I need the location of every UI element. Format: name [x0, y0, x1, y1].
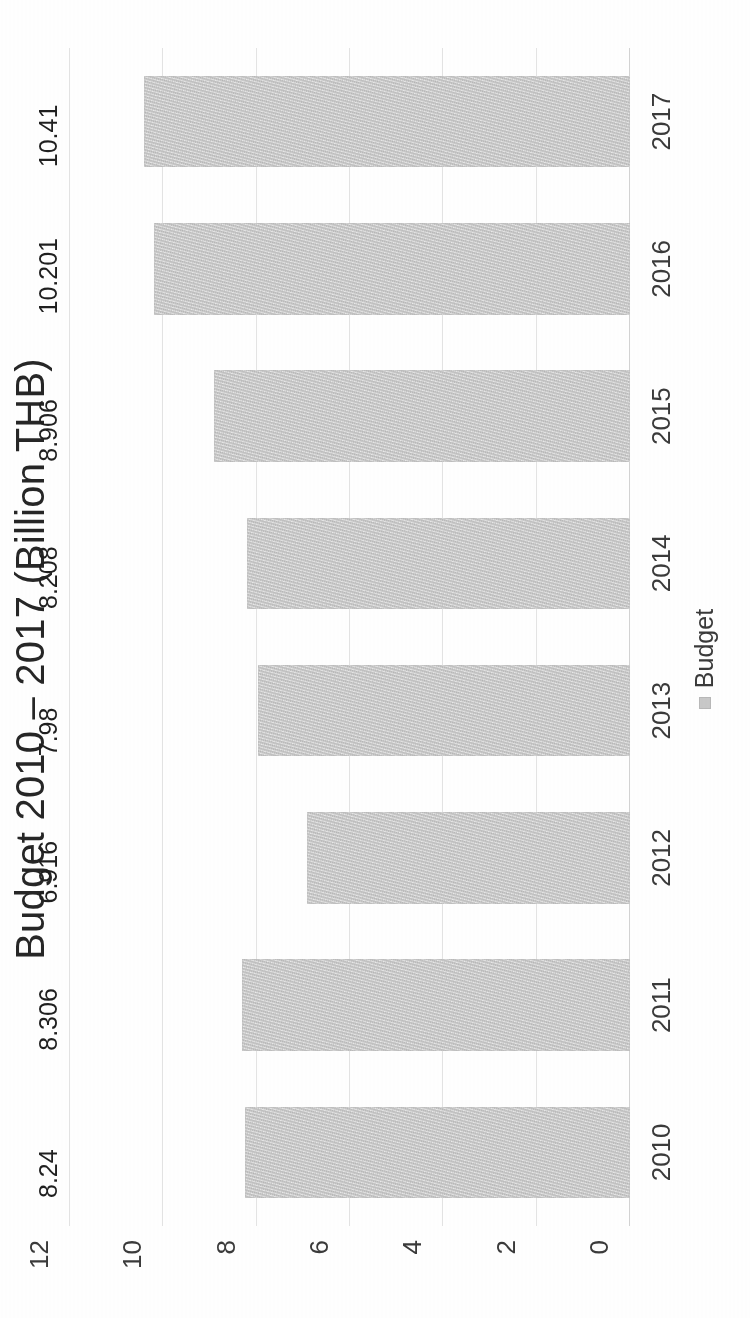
bar-group-2014: 8.2082014 [70, 490, 630, 637]
bar-group-2013: 7.982013 [70, 637, 630, 784]
bar-value-label-2015: 8.906 [34, 399, 63, 462]
y-tick-label-2: 2 [490, 1240, 521, 1254]
x-tick-label-2016: 2016 [646, 240, 677, 298]
bar-value-label-2016: 10.201 [34, 238, 63, 314]
plot-area: 024681012 8.2420108.30620116.91620127.98… [70, 48, 630, 1226]
x-tick-label-2013: 2013 [646, 682, 677, 740]
bar-group-2011: 8.3062011 [70, 932, 630, 1079]
bar-group-2016: 10.2012016 [70, 195, 630, 342]
bar-value-label-2010: 8.24 [34, 1149, 63, 1198]
y-tick-label-0: 0 [584, 1240, 615, 1254]
legend-label-budget: Budget [690, 609, 719, 688]
bar-group-2010: 8.242010 [70, 1079, 630, 1226]
y-tick-label-6: 6 [304, 1240, 335, 1254]
x-tick-label-2017: 2017 [646, 93, 677, 151]
bar-series-budget: 8.2420108.30620116.91620127.9820138.2082… [70, 48, 630, 1226]
bar-group-2015: 8.9062015 [70, 343, 630, 490]
bar-2011[interactable]: 8.306 [242, 959, 630, 1050]
scanned-page: Budget 2010 – 2017 (Billion THB) 0246810… [0, 0, 750, 1318]
x-tick-label-2014: 2014 [646, 534, 677, 592]
chart-title: Budget 2010 – 2017 (Billion THB) [8, 0, 53, 1318]
rotated-chart-container: Budget 2010 – 2017 (Billion THB) 0246810… [0, 0, 750, 1318]
legend-swatch-budget [699, 697, 711, 709]
bar-group-2017: 10.412017 [70, 48, 630, 195]
bar-2014[interactable]: 8.208 [247, 518, 630, 609]
chart-legend: Budget [690, 0, 719, 1318]
x-tick-label-2010: 2010 [646, 1123, 677, 1181]
y-tick-label-12: 12 [24, 1240, 55, 1269]
bar-value-label-2013: 7.98 [34, 708, 63, 757]
x-tick-label-2011: 2011 [646, 977, 677, 1033]
x-tick-label-2012: 2012 [646, 829, 677, 887]
bar-value-label-2012: 6.916 [34, 841, 63, 904]
bar-2017[interactable]: 10.41 [144, 76, 630, 167]
y-tick-label-8: 8 [210, 1240, 241, 1254]
bar-value-label-2011: 8.306 [34, 988, 63, 1051]
bar-2010[interactable]: 8.24 [245, 1107, 630, 1198]
x-tick-label-2015: 2015 [646, 387, 677, 445]
bar-value-label-2017: 10.41 [34, 105, 63, 168]
y-tick-label-4: 4 [397, 1240, 428, 1254]
bar-2013[interactable]: 7.98 [258, 665, 630, 756]
bar-chart: Budget 2010 – 2017 (Billion THB) 0246810… [0, 0, 750, 1318]
bar-group-2012: 6.9162012 [70, 784, 630, 931]
bar-2016[interactable]: 10.201 [154, 223, 630, 314]
bar-value-label-2014: 8.208 [34, 546, 63, 609]
y-tick-label-10: 10 [117, 1240, 148, 1269]
bar-2012[interactable]: 6.916 [307, 812, 630, 903]
bar-2015[interactable]: 8.906 [214, 370, 630, 461]
